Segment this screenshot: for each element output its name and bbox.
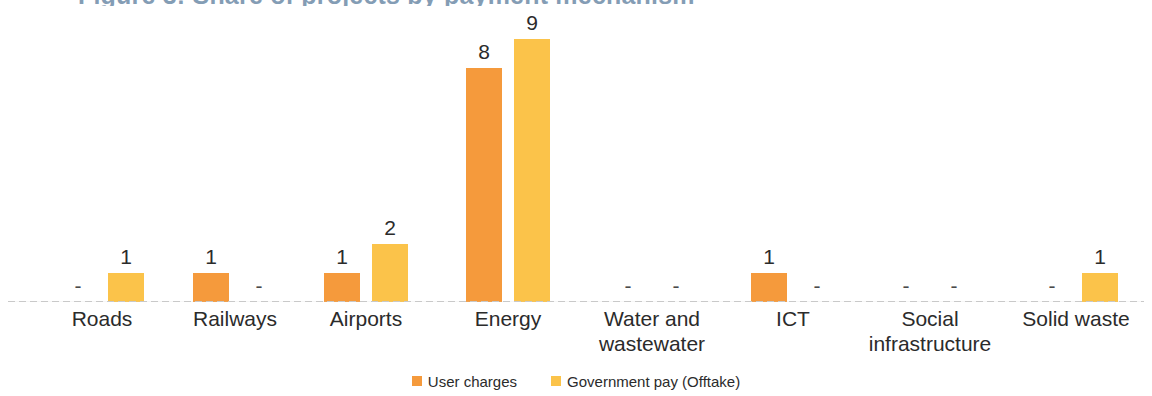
bar-value-label: - <box>799 274 835 298</box>
legend-swatch-icon <box>412 376 422 386</box>
bar-value-label: - <box>658 274 694 298</box>
bar[interactable] <box>1082 273 1118 302</box>
bar-value-label: 2 <box>372 216 408 240</box>
bar[interactable] <box>108 273 144 302</box>
bar-value-label: 1 <box>751 245 787 269</box>
bar-value-label: 1 <box>108 245 144 269</box>
bar-value-label: 8 <box>466 40 502 64</box>
grouped-bar-chart: -11-1289--1----1 RoadsRailwaysAirportsEn… <box>0 0 1152 396</box>
plot-area: -11-1289--1----1 <box>0 8 1152 302</box>
legend-item[interactable]: User charges <box>412 373 517 390</box>
legend-label: Government pay (Offtake) <box>567 373 740 390</box>
bar[interactable] <box>466 68 502 302</box>
legend-item[interactable]: Government pay (Offtake) <box>551 373 740 390</box>
x-axis-baseline <box>8 301 1144 302</box>
bar-value-label: - <box>241 274 277 298</box>
bar-value-label: 1 <box>193 245 229 269</box>
chart-legend: User chargesGovernment pay (Offtake) <box>0 370 1152 392</box>
bar-value-label: - <box>610 274 646 298</box>
bar[interactable] <box>751 273 787 302</box>
legend-label: User charges <box>428 373 517 390</box>
bar[interactable] <box>372 244 408 302</box>
bar-value-label: 1 <box>324 245 360 269</box>
bar-value-label: - <box>60 274 96 298</box>
category-axis-labels: RoadsRailwaysAirportsEnergyWater and was… <box>0 306 1152 364</box>
category-label: Solid waste <box>986 306 1152 331</box>
bar-value-label: 1 <box>1082 245 1118 269</box>
legend-swatch-icon <box>551 376 561 386</box>
bar[interactable] <box>324 273 360 302</box>
bar-value-label: - <box>1034 274 1070 298</box>
bar-value-label: - <box>936 274 972 298</box>
bar[interactable] <box>514 39 550 302</box>
bar-value-label: - <box>888 274 924 298</box>
bar-value-label: 9 <box>514 11 550 35</box>
bar[interactable] <box>193 273 229 302</box>
